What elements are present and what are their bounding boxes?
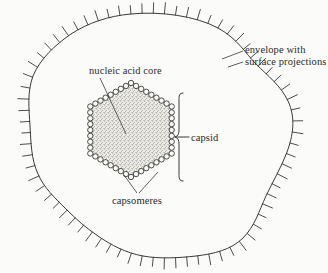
capsomere — [93, 101, 98, 106]
capsomere — [98, 98, 103, 103]
surface-projection — [152, 257, 153, 266]
capsomere — [169, 104, 174, 109]
surface-projection — [272, 184, 280, 188]
capsomere — [149, 163, 154, 168]
surface-projection — [106, 244, 111, 252]
capsomere — [169, 121, 174, 126]
surface-projection — [37, 53, 44, 58]
surface-projection — [62, 27, 68, 36]
capsomere — [138, 86, 143, 91]
capsomere — [169, 116, 174, 121]
surface-projection — [230, 247, 234, 255]
virus-diagram-figure: envelope with surface projections nuclei… — [0, 0, 328, 273]
capsomere — [169, 127, 174, 132]
surface-projection — [164, 3, 165, 14]
surface-projection — [291, 108, 300, 110]
surface-projection — [209, 254, 211, 265]
surface-projection — [78, 225, 84, 232]
surface-projection — [281, 84, 289, 90]
surface-projection — [274, 75, 281, 81]
surface-projection — [53, 34, 59, 42]
surface-projection — [36, 186, 45, 192]
capsomere — [133, 83, 138, 88]
surface-projection — [282, 164, 291, 168]
capsomere — [144, 165, 149, 170]
capsomere — [88, 104, 93, 109]
surface-projection — [74, 22, 78, 30]
surface-projection — [258, 214, 266, 217]
capsomere — [164, 101, 169, 106]
surface-projection — [267, 194, 276, 198]
capsomere — [169, 151, 174, 156]
surface-projection — [44, 194, 51, 200]
leader-envelope — [222, 51, 243, 67]
surface-projection — [208, 15, 211, 23]
capsomere — [169, 133, 174, 138]
capsomere — [88, 121, 93, 126]
capsomere — [164, 154, 169, 159]
surface-projection — [286, 154, 295, 157]
capsomere — [88, 151, 93, 156]
surface-projection — [253, 224, 261, 229]
capsomere — [88, 127, 93, 132]
surface-projection — [186, 7, 188, 17]
surface-projection — [96, 238, 102, 247]
capsomere — [123, 83, 128, 88]
capsomere — [88, 139, 93, 144]
surface-projection — [227, 26, 233, 34]
surface-projection — [107, 9, 109, 17]
surface-projection — [220, 251, 223, 260]
surface-projection — [68, 218, 75, 225]
capsomere — [103, 160, 108, 165]
capsomere — [133, 171, 138, 176]
capsomere — [159, 98, 164, 103]
surface-projection — [23, 155, 33, 156]
surface-projection — [29, 176, 39, 181]
surface-projection — [239, 241, 246, 250]
capsomere — [113, 165, 118, 170]
capsomere — [88, 116, 93, 121]
surface-projection — [28, 61, 37, 67]
surface-projection — [198, 256, 199, 264]
surface-projection — [23, 74, 32, 78]
diagram-canvas — [0, 0, 328, 273]
surface-projection — [187, 257, 188, 266]
capsomere — [169, 139, 174, 144]
capsomere — [159, 157, 164, 162]
surface-projection — [128, 253, 131, 263]
capsomere — [154, 95, 159, 100]
surface-projection — [140, 256, 142, 266]
capsomere — [88, 110, 93, 115]
surface-projection — [247, 233, 255, 240]
surface-projection — [119, 6, 120, 15]
surface-projection — [95, 11, 98, 21]
capsomere — [128, 174, 133, 179]
capsomere — [103, 95, 108, 100]
surface-projection — [21, 86, 30, 88]
label-envelope: envelope with surface projections — [245, 44, 327, 67]
surface-projection — [45, 43, 52, 50]
surface-projection — [117, 249, 121, 257]
surface-projection — [20, 121, 29, 122]
label-capsomeres: capsomeres — [112, 195, 162, 207]
label-nucleic-acid-core: nucleic acid core — [89, 65, 162, 77]
surface-projection — [218, 20, 223, 28]
surface-projection — [26, 166, 35, 168]
capsomere — [108, 163, 113, 168]
label-envelope-line1: envelope with — [245, 44, 327, 56]
surface-projection — [197, 9, 200, 19]
capsomere — [128, 80, 133, 85]
surface-projection — [53, 202, 59, 208]
capsomere — [138, 168, 143, 173]
capsomere — [149, 92, 154, 97]
surface-projection — [266, 68, 272, 74]
capsomere — [144, 89, 149, 94]
surface-projection — [84, 16, 88, 25]
surface-projection — [236, 33, 244, 41]
capsomere — [98, 157, 103, 162]
capsomere — [88, 145, 93, 150]
capsomere — [113, 89, 118, 94]
label-capsid: capsid — [191, 132, 218, 144]
surface-projection — [292, 132, 303, 134]
surface-projection — [20, 144, 31, 145]
